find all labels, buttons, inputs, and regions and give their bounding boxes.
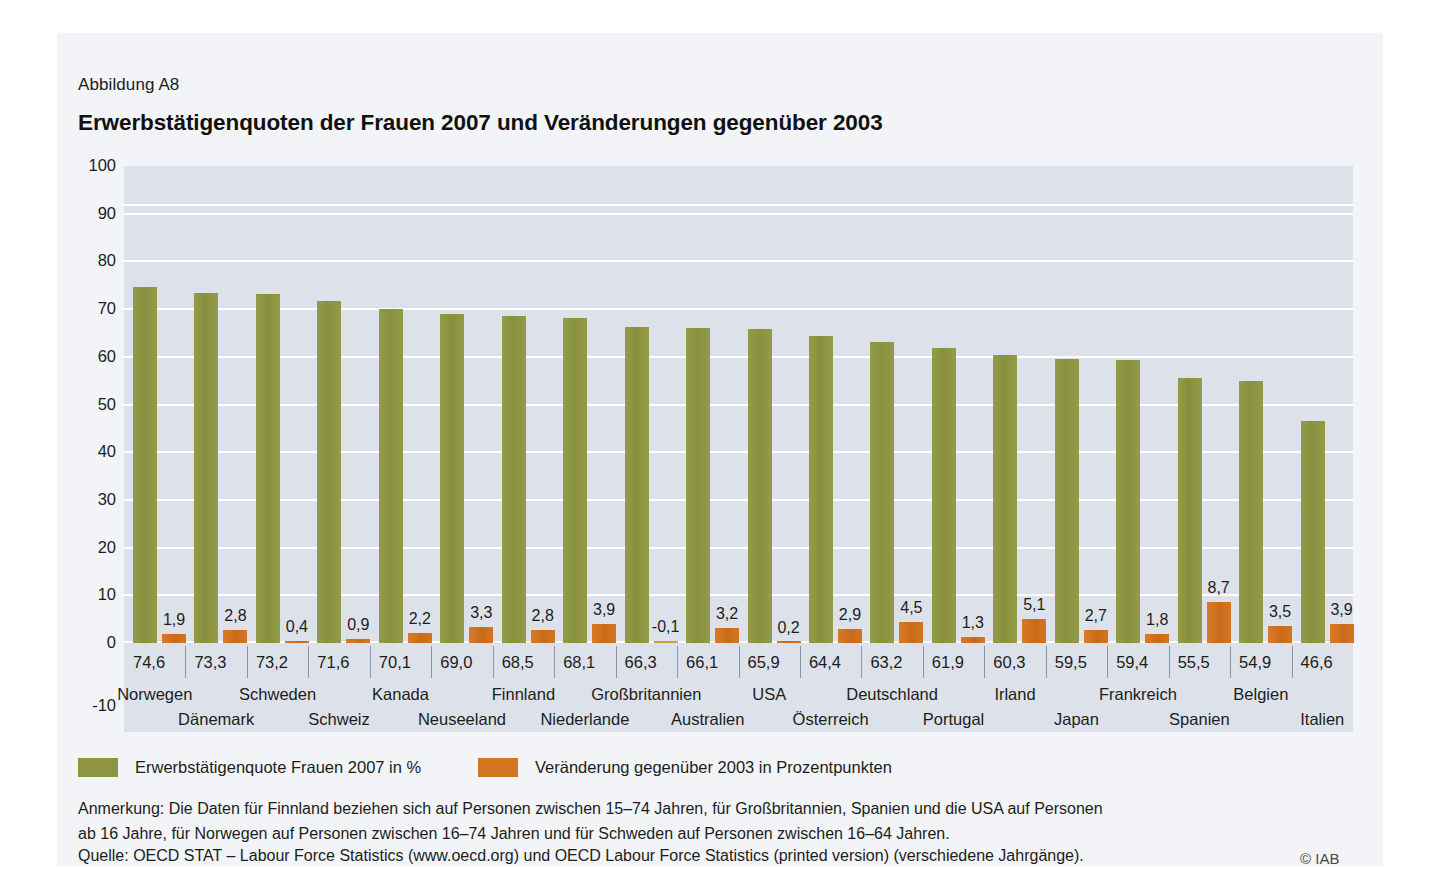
value-cell-separator xyxy=(247,646,248,678)
value-cell: 74,6 xyxy=(124,643,185,681)
chart: 1009080706050403020100-10 1,92,80,40,92,… xyxy=(78,166,1353,732)
value-cell-separator xyxy=(677,646,678,678)
value-cell-separator xyxy=(493,646,494,678)
value-cell: 70,1 xyxy=(370,643,431,681)
figure-number: Abbildung A8 xyxy=(78,75,179,95)
bar-change xyxy=(1330,624,1354,643)
bar-group: 1,8 xyxy=(1107,166,1168,643)
green-swatch xyxy=(78,758,118,777)
bar-group: 3,9 xyxy=(554,166,615,643)
y-axis-tick-10: 10 xyxy=(98,586,116,603)
bar-group: 2,2 xyxy=(370,166,431,643)
value-cell: 64,4 xyxy=(800,643,861,681)
y-axis-tick-30: 30 xyxy=(98,491,116,508)
value-cell: 60,3 xyxy=(984,643,1045,681)
bar-group: 1,9 xyxy=(124,166,185,643)
y-axis-tick-80: 80 xyxy=(98,252,116,269)
bar-employment-rate xyxy=(194,293,218,643)
value-cell-separator xyxy=(861,646,862,678)
value-cell-separator xyxy=(1046,646,1047,678)
y-axis-tick-20: 20 xyxy=(98,539,116,556)
bar-employment-rate xyxy=(625,327,649,643)
note-line-2: ab 16 Jahre, für Norwegen auf Personen z… xyxy=(78,822,1308,847)
bar-change xyxy=(1084,630,1108,643)
value-strip: 74,673,373,271,670,169,068,568,166,366,1… xyxy=(124,643,1353,681)
bar-change xyxy=(1022,619,1046,643)
value-cell: 54,9 xyxy=(1230,643,1291,681)
y-axis-tick-40: 40 xyxy=(98,443,116,460)
bar-group: 8,7 xyxy=(1169,166,1230,643)
bar-change xyxy=(469,627,493,643)
bar-group: 2,9 xyxy=(800,166,861,643)
bar-group: 0,9 xyxy=(308,166,369,643)
value-cell: 66,1 xyxy=(677,643,738,681)
value-cell: 73,3 xyxy=(185,643,246,681)
bar-employment-rate xyxy=(502,316,526,643)
bar-change xyxy=(408,633,432,643)
y-axis-tick-70: 70 xyxy=(98,300,116,317)
value-cell: 59,5 xyxy=(1046,643,1107,681)
value-cell-separator xyxy=(1169,646,1170,678)
value-cell-separator xyxy=(1292,646,1293,678)
bar-change xyxy=(223,630,247,643)
bar-employment-rate xyxy=(256,294,280,643)
bar-group: 2,8 xyxy=(185,166,246,643)
plot-canvas: 1,92,80,40,92,23,32,83,9-0,13,20,22,94,5… xyxy=(124,166,1353,643)
value-cell: 65,9 xyxy=(739,643,800,681)
value-cell-separator xyxy=(1107,646,1108,678)
bar-group: 3,5 xyxy=(1230,166,1291,643)
category-label-belgien: Belgien xyxy=(1171,685,1351,704)
footnotes: Anmerkung: Die Daten für Finnland bezieh… xyxy=(78,797,1308,846)
bar-employment-rate xyxy=(686,328,710,643)
y-axis-tick-0: 0 xyxy=(107,634,116,651)
category-label-italien: Italien xyxy=(1232,710,1412,729)
source-line: Quelle: OECD STAT – Labour Force Statist… xyxy=(78,847,1084,865)
value-strip-underline xyxy=(124,204,1353,206)
value-cell: 55,5 xyxy=(1169,643,1230,681)
value-cell: 59,4 xyxy=(1107,643,1168,681)
y-axis-tick-60: 60 xyxy=(98,348,116,365)
value-cell-separator xyxy=(800,646,801,678)
bar-change xyxy=(1207,602,1231,643)
bar-change xyxy=(715,628,739,643)
bar-employment-rate xyxy=(1178,378,1202,643)
bar-employment-rate xyxy=(317,301,341,643)
value-cell: 63,2 xyxy=(861,643,922,681)
bar-employment-rate xyxy=(1055,359,1079,643)
bar-employment-rate xyxy=(440,314,464,643)
legend-item: Veränderung gegenüber 2003 in Prozentpun… xyxy=(478,753,892,781)
figure-page: Abbildung A8 Erwerbstätigenquoten der Fr… xyxy=(0,0,1441,894)
value-cell: 71,6 xyxy=(308,643,369,681)
plot-area: 1,92,80,40,92,23,32,83,9-0,13,20,22,94,5… xyxy=(124,166,1353,732)
value-cell: 66,3 xyxy=(616,643,677,681)
bar-change xyxy=(592,624,616,643)
bar-group: 0,4 xyxy=(247,166,308,643)
bar-change-value-label: 3,9 xyxy=(1322,601,1362,619)
bar-change xyxy=(899,622,923,643)
bar-employment-rate xyxy=(932,348,956,643)
bar-employment-rate xyxy=(379,309,403,643)
category-labels: NorwegenDänemarkSchwedenSchweizKanadaNeu… xyxy=(124,685,1353,732)
value-cell: 69,0 xyxy=(431,643,492,681)
bar-group: -0,1 xyxy=(616,166,677,643)
bar-employment-rate xyxy=(133,287,157,643)
bar-employment-rate xyxy=(809,336,833,643)
y-axis-tick-50: 50 xyxy=(98,396,116,413)
value-cell: 68,1 xyxy=(554,643,615,681)
value-cell-separator xyxy=(308,646,309,678)
value-cell-separator xyxy=(923,646,924,678)
bar-change xyxy=(1268,626,1292,643)
note-line-1: Anmerkung: Die Daten für Finnland bezieh… xyxy=(78,797,1308,822)
bar-group: 4,5 xyxy=(861,166,922,643)
bar-change xyxy=(1145,634,1169,643)
legend-label: Veränderung gegenüber 2003 in Prozentpun… xyxy=(535,758,892,777)
value-cell: 73,2 xyxy=(247,643,308,681)
bar-group: 2,8 xyxy=(493,166,554,643)
value-cell-separator xyxy=(370,646,371,678)
value-cell-separator xyxy=(739,646,740,678)
page-title: Erwerbstätigenquoten der Frauen 2007 und… xyxy=(78,110,883,136)
value-cell-separator xyxy=(616,646,617,678)
bar-group: 5,1 xyxy=(984,166,1045,643)
legend-item: Erwerbstätigenquote Frauen 2007 in % xyxy=(78,753,421,781)
legend-label: Erwerbstätigenquote Frauen 2007 in % xyxy=(135,758,421,777)
